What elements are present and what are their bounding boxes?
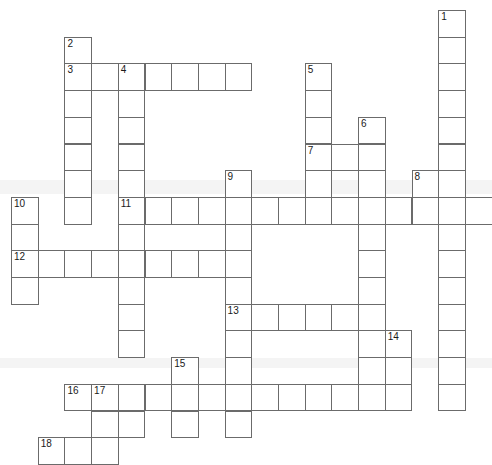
- crossword-cell[interactable]: [145, 63, 173, 91]
- crossword-cell[interactable]: [225, 277, 253, 305]
- crossword-cell[interactable]: [331, 304, 359, 332]
- crossword-cell[interactable]: [438, 304, 466, 332]
- crossword-cell[interactable]: [118, 224, 146, 252]
- crossword-cell[interactable]: [225, 197, 253, 225]
- crossword-cell[interactable]: [38, 250, 66, 278]
- crossword-cell-numbered-4[interactable]: 4: [118, 63, 146, 91]
- crossword-cell[interactable]: [171, 411, 199, 439]
- crossword-cell[interactable]: [385, 357, 413, 385]
- crossword-cell[interactable]: [438, 117, 466, 145]
- crossword-cell[interactable]: [438, 277, 466, 305]
- crossword-cell[interactable]: [278, 197, 306, 225]
- crossword-cell[interactable]: [438, 384, 466, 412]
- crossword-cell[interactable]: [118, 384, 146, 412]
- crossword-cell[interactable]: [358, 250, 386, 278]
- crossword-cell-numbered-11[interactable]: 11: [118, 197, 146, 225]
- crossword-cell[interactable]: [385, 197, 413, 225]
- crossword-cell[interactable]: [198, 63, 226, 91]
- crossword-cell[interactable]: [438, 197, 466, 225]
- crossword-cell[interactable]: [118, 277, 146, 305]
- crossword-cell[interactable]: [331, 384, 359, 412]
- crossword-cell[interactable]: [91, 411, 119, 439]
- crossword-cell[interactable]: [198, 250, 226, 278]
- crossword-cell[interactable]: [278, 304, 306, 332]
- crossword-cell[interactable]: [171, 384, 199, 412]
- crossword-cell[interactable]: [145, 250, 173, 278]
- crossword-cell[interactable]: [118, 250, 146, 278]
- crossword-cell[interactable]: [358, 330, 386, 358]
- crossword-cell[interactable]: [171, 250, 199, 278]
- crossword-cell-numbered-12[interactable]: 12: [11, 250, 39, 278]
- crossword-cell[interactable]: [64, 144, 92, 172]
- crossword-cell-numbered-14[interactable]: 14: [385, 330, 413, 358]
- crossword-cell[interactable]: [11, 224, 39, 252]
- crossword-cell[interactable]: [465, 197, 492, 225]
- crossword-cell[interactable]: [118, 90, 146, 118]
- crossword-cell-numbered-8[interactable]: 8: [412, 170, 440, 198]
- crossword-cell[interactable]: [358, 357, 386, 385]
- crossword-cell-numbered-7[interactable]: 7: [305, 144, 333, 172]
- crossword-cell-numbered-3[interactable]: 3: [64, 63, 92, 91]
- crossword-cell[interactable]: [305, 90, 333, 118]
- crossword-cell[interactable]: [225, 224, 253, 252]
- crossword-cell[interactable]: [438, 37, 466, 65]
- crossword-cell[interactable]: [438, 330, 466, 358]
- crossword-cell[interactable]: [118, 304, 146, 332]
- crossword-cell[interactable]: [225, 411, 253, 439]
- crossword-cell[interactable]: [438, 250, 466, 278]
- crossword-cell[interactable]: [305, 304, 333, 332]
- crossword-cell[interactable]: [64, 197, 92, 225]
- crossword-cell-numbered-15[interactable]: 15: [171, 357, 199, 385]
- crossword-cell[interactable]: [358, 277, 386, 305]
- crossword-cell[interactable]: [331, 197, 359, 225]
- crossword-cell-numbered-16[interactable]: 16: [64, 384, 92, 412]
- crossword-cell[interactable]: [225, 250, 253, 278]
- crossword-cell[interactable]: [358, 170, 386, 198]
- crossword-cell-numbered-2[interactable]: 2: [64, 37, 92, 65]
- crossword-cell[interactable]: [64, 250, 92, 278]
- crossword-cell[interactable]: [358, 384, 386, 412]
- crossword-cell[interactable]: [305, 170, 333, 198]
- crossword-cell[interactable]: [438, 63, 466, 91]
- crossword-cell[interactable]: [118, 170, 146, 198]
- crossword-cell[interactable]: [11, 277, 39, 305]
- crossword-cell[interactable]: [118, 144, 146, 172]
- crossword-cell-numbered-18[interactable]: 18: [38, 437, 66, 465]
- crossword-cell[interactable]: [118, 411, 146, 439]
- crossword-cell[interactable]: [225, 330, 253, 358]
- crossword-cell[interactable]: [171, 197, 199, 225]
- crossword-cell[interactable]: [91, 437, 119, 465]
- crossword-cell[interactable]: [225, 63, 253, 91]
- crossword-cell[interactable]: [64, 437, 92, 465]
- crossword-cell[interactable]: [331, 144, 359, 172]
- crossword-cell[interactable]: [305, 384, 333, 412]
- crossword-cell[interactable]: [145, 384, 173, 412]
- crossword-cell[interactable]: [118, 117, 146, 145]
- crossword-cell-numbered-17[interactable]: 17: [91, 384, 119, 412]
- crossword-cell[interactable]: [438, 144, 466, 172]
- crossword-cell[interactable]: [251, 197, 279, 225]
- crossword-cell-numbered-6[interactable]: 6: [358, 117, 386, 145]
- crossword-cell[interactable]: [358, 304, 386, 332]
- crossword-cell[interactable]: [251, 384, 279, 412]
- crossword-cell[interactable]: [305, 117, 333, 145]
- crossword-cell-numbered-1[interactable]: 1: [438, 10, 466, 38]
- crossword-cell[interactable]: [64, 170, 92, 198]
- crossword-cell[interactable]: [358, 197, 386, 225]
- crossword-cell[interactable]: [438, 224, 466, 252]
- crossword-cell-numbered-10[interactable]: 10: [11, 197, 39, 225]
- crossword-cell[interactable]: [171, 63, 199, 91]
- crossword-cell-numbered-5[interactable]: 5: [305, 63, 333, 91]
- crossword-cell[interactable]: [358, 144, 386, 172]
- crossword-cell[interactable]: [145, 197, 173, 225]
- crossword-cell[interactable]: [64, 117, 92, 145]
- crossword-cell[interactable]: [225, 357, 253, 385]
- crossword-cell[interactable]: [198, 384, 226, 412]
- crossword-cell[interactable]: [91, 63, 119, 91]
- crossword-cell[interactable]: [305, 197, 333, 225]
- crossword-cell-numbered-13[interactable]: 13: [225, 304, 253, 332]
- crossword-cell[interactable]: [225, 384, 253, 412]
- crossword-cell[interactable]: [438, 90, 466, 118]
- crossword-cell[interactable]: [438, 170, 466, 198]
- crossword-cell[interactable]: [278, 384, 306, 412]
